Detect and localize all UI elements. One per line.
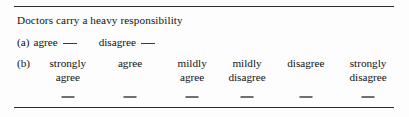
scale-label-agree: agree [118, 57, 142, 71]
answer-blank-disagree[interactable] [299, 96, 312, 98]
question-stem: Doctors carry a heavy responsibility [17, 14, 183, 27]
part-a-option-disagree-label: disagree [99, 36, 136, 48]
scale-label-strongly-agree: strongly agree [49, 57, 86, 84]
part-a-row: (a)agreedisagree [17, 36, 155, 49]
survey-figure: Doctors carry a heavy responsibility (a)… [0, 0, 409, 117]
scale-label-strongly-disagree: strongly disagree [349, 57, 386, 84]
scale-label-line2: agree [49, 71, 86, 85]
scale-label-line1: mildly [232, 57, 261, 69]
part-b-marker: (b) [17, 57, 30, 70]
scale-label-line2: disagree [228, 71, 265, 85]
scale-label-line2: disagree [349, 71, 386, 85]
top-rule [14, 6, 394, 7]
part-a-marker: (a) [17, 36, 29, 48]
answer-blank-agree[interactable] [123, 96, 136, 98]
answer-blank-strongly-agree[interactable] [61, 96, 74, 98]
part-a-option-agree[interactable]: agree [33, 36, 76, 49]
part-b-scale-labels: strongly agree agree mildly agree mildly… [31, 57, 399, 87]
answer-blank-mildly-agree[interactable] [186, 96, 199, 98]
part-a-answer-blank-agree[interactable] [63, 43, 77, 44]
bottom-rule [14, 107, 394, 108]
scale-label-line2: agree [178, 71, 207, 85]
scale-label-mildly-disagree: mildly disagree [228, 57, 265, 84]
scale-label-line1: agree [118, 57, 142, 69]
part-a-answer-blank-disagree[interactable] [141, 43, 155, 44]
scale-label-line1: disagree [287, 57, 324, 69]
part-a-option-disagree[interactable]: disagree [99, 36, 155, 49]
scale-label-line1: mildly [178, 57, 207, 69]
scale-label-line1: strongly [350, 57, 387, 69]
part-b-answer-blanks [31, 92, 399, 104]
answer-blank-mildly-disagree[interactable] [241, 96, 254, 98]
scale-label-line1: strongly [49, 57, 86, 69]
part-a-option-agree-label: agree [33, 36, 57, 48]
scale-label-mildly-agree: mildly agree [178, 57, 207, 84]
answer-blank-strongly-disagree[interactable] [362, 96, 375, 98]
scale-label-disagree: disagree [287, 57, 324, 71]
